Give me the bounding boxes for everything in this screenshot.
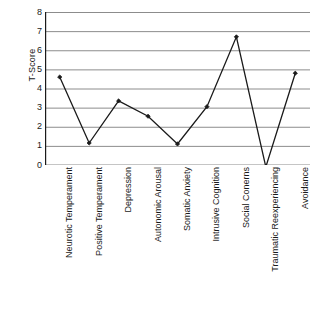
line-chart: T-Score 876543210 Neurotic TemperamentPo… (0, 0, 327, 309)
x-axis-tick-label-text: Autonomic Arousal (153, 167, 163, 242)
y-axis-tick-label: 3 (28, 103, 42, 112)
x-axis-tick-label-text: Neurotic Temperament (64, 167, 74, 258)
plot-area (45, 12, 310, 165)
y-axis-tick-label: 5 (28, 65, 42, 74)
x-axis-tick-label-text: Depression (123, 167, 133, 213)
y-axis-tick-labels: 876543210 (24, 0, 42, 309)
x-axis-tick-label: Avoidance (300, 167, 310, 307)
x-axis-tick-label-text: Somatic Anxiety (182, 167, 192, 231)
y-axis-tick-label: 6 (28, 46, 42, 55)
x-axis-tick-labels: Neurotic TemperamentPositive Temperament… (45, 167, 310, 309)
plot-svg (45, 12, 310, 165)
x-axis-tick-label: Traumatic Reexperiencing (270, 167, 280, 307)
x-axis-tick-label-text: Traumatic Reexperiencing (270, 167, 280, 272)
x-axis-tick-label: Intrusive Cognition (211, 167, 221, 307)
y-axis-tick-label: 7 (28, 27, 42, 36)
x-axis-tick-label: Somatic Anxiety (182, 167, 192, 307)
x-axis-tick-label-text: Intrusive Cognition (211, 167, 221, 242)
y-axis-tick-label: 8 (28, 8, 42, 17)
x-axis-tick-label: Social Conerns (241, 167, 251, 307)
x-axis-tick-label-text: Positive Temperament (94, 167, 104, 256)
x-axis-tick-label-text: Social Conerns (241, 167, 251, 228)
x-axis-tick-label-text: Avoidance (300, 167, 310, 209)
y-axis-tick-label: 4 (28, 84, 42, 93)
y-axis-tick-label: 2 (28, 122, 42, 131)
x-axis-tick-label: Depression (123, 167, 133, 307)
y-axis-tick-label: 0 (28, 161, 42, 170)
x-axis-tick-label: Positive Temperament (94, 167, 104, 307)
y-axis-tick-label: 1 (28, 141, 42, 150)
x-axis-tick-label: Autonomic Arousal (153, 167, 163, 307)
x-axis-tick-label: Neurotic Temperament (64, 167, 74, 307)
